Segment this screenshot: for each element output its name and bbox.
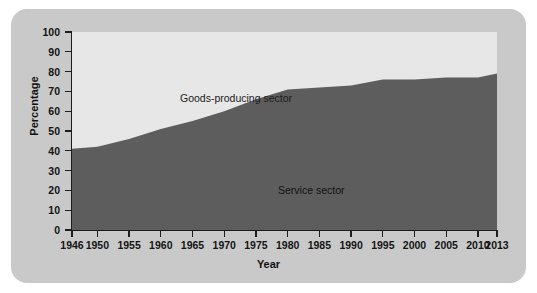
chart-figure: Goods-producing sector Service sector 01… <box>0 0 537 293</box>
x-tick-mark <box>192 231 193 237</box>
x-tick-mark <box>255 231 256 237</box>
plot-area: Goods-producing sector Service sector <box>72 32 497 230</box>
x-tick-mark <box>414 231 415 237</box>
y-tick-mark <box>65 91 71 92</box>
x-tick-mark <box>224 231 225 237</box>
y-tick-label: 20 <box>34 185 60 195</box>
x-tick-mark <box>350 231 351 237</box>
x-axis-line <box>71 230 498 231</box>
y-tick-mark <box>65 31 71 32</box>
y-tick-mark <box>65 71 71 72</box>
x-tick-label: 2013 <box>477 239 517 251</box>
x-tick-mark <box>446 231 447 237</box>
y-tick-mark <box>65 190 71 191</box>
goods-producing-sector-label: Goods-producing sector <box>180 92 292 104</box>
y-axis-line <box>71 31 72 231</box>
x-tick-mark <box>319 231 320 237</box>
x-tick-mark <box>382 231 383 237</box>
x-tick-mark <box>128 231 129 237</box>
x-tick-mark <box>97 231 98 237</box>
x-axis-title: Year <box>0 258 537 270</box>
y-tick-mark <box>65 150 71 151</box>
service-sector-label: Service sector <box>278 184 345 196</box>
y-tick-label: 30 <box>34 166 60 176</box>
y-tick-label: 100 <box>34 27 60 37</box>
x-tick-mark <box>71 231 72 237</box>
y-tick-label: 0 <box>34 225 60 235</box>
x-tick-mark <box>160 231 161 237</box>
x-tick-mark <box>287 231 288 237</box>
y-tick-mark <box>65 170 71 171</box>
x-tick-mark <box>496 231 497 237</box>
y-axis-title: Percentage <box>28 46 40 166</box>
y-tick-mark <box>65 210 71 211</box>
y-tick-mark <box>65 130 71 131</box>
y-tick-mark <box>65 51 71 52</box>
y-tick-label: 10 <box>34 205 60 215</box>
x-tick-mark <box>477 231 478 237</box>
area-chart-svg <box>72 32 497 230</box>
y-tick-mark <box>65 229 71 230</box>
y-tick-mark <box>65 111 71 112</box>
